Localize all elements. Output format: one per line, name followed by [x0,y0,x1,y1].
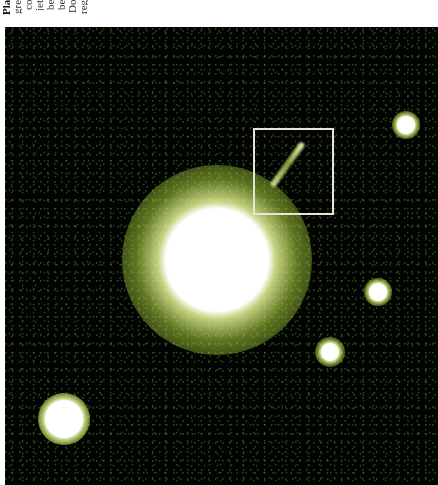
caption-line: Pla [2,0,11,26]
source-top-right [392,111,420,139]
caption-line: be [46,0,55,26]
caption-line: reg [79,0,88,26]
caption-line: gre [13,0,22,26]
bright-star-bottom-left [38,393,90,445]
rotated-caption: Pla gre co jet be be Do reg [2,0,122,26]
astronomical-photo [5,27,438,485]
caption-line: jet [35,0,44,26]
caption-line: be [57,0,66,26]
caption-line: Do [68,0,77,26]
source-lower-right [315,337,345,367]
caption-line: co [24,0,33,26]
source-right [364,278,392,306]
highlight-box [253,128,334,215]
